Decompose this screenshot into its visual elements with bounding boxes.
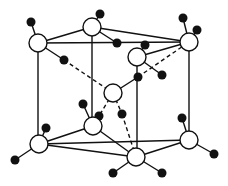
black-atom	[27, 18, 36, 27]
white-atom-bottom-back	[84, 117, 102, 135]
white-atom-top-back	[83, 18, 101, 36]
white-atom-center	[104, 84, 122, 102]
white-atom-top-left	[29, 34, 47, 52]
black-atom	[113, 39, 122, 48]
white-atom-bottom-front	[127, 148, 145, 166]
bond-line	[92, 27, 189, 42]
black-atom	[179, 14, 188, 23]
black-atom	[158, 71, 167, 80]
dashed-bonds	[64, 42, 189, 157]
black-atom	[141, 41, 150, 50]
black-atom	[42, 124, 51, 133]
black-atom	[193, 26, 202, 35]
black-atom	[96, 10, 105, 19]
black-atom	[134, 73, 143, 82]
black-atom	[118, 110, 127, 119]
white-atom-top-front	[128, 48, 146, 66]
black-atom	[11, 156, 20, 165]
white-atom-bottom-left	[30, 135, 48, 153]
black-atom	[178, 114, 187, 123]
black-atom	[109, 169, 118, 178]
black-atom	[79, 100, 88, 109]
black-atom	[158, 169, 167, 178]
black-atom	[60, 56, 69, 65]
white-atom-top-right	[180, 33, 198, 51]
black-atom	[210, 150, 219, 159]
crystal-structure-diagram	[0, 0, 228, 186]
white-atom-bottom-right	[180, 131, 198, 149]
